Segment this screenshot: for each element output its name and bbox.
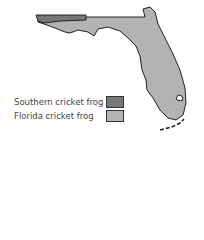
legend-label: Florida cricket frog [14, 111, 104, 121]
legend-swatch [106, 110, 124, 122]
legend-item: Florida cricket frog [14, 109, 124, 123]
legend-label: Southern cricket frog [14, 97, 104, 107]
florida-keys [160, 119, 184, 130]
map-legend: Southern cricket frog Florida cricket fr… [14, 95, 124, 123]
legend-swatch [106, 96, 124, 108]
legend-item: Southern cricket frog [14, 95, 124, 109]
